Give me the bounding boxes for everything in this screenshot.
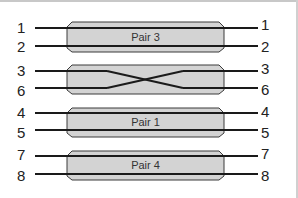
left-pin-2: 2 [17, 39, 25, 54]
right-pin-5: 5 [261, 125, 269, 140]
pair-1-label: Pair 1 [67, 116, 224, 128]
right-pin-7: 7 [261, 146, 269, 161]
pair-3-label: Pair 3 [67, 31, 224, 43]
left-pin-3: 3 [17, 63, 25, 78]
right-pin-2: 2 [261, 39, 269, 54]
left-pin-5: 5 [17, 125, 25, 140]
left-pin-8: 8 [17, 168, 25, 183]
left-pin-7: 7 [17, 147, 25, 162]
right-pin-6: 6 [261, 82, 269, 97]
crossover-3-6-group [35, 65, 258, 94]
left-pin-6: 6 [17, 83, 25, 98]
right-pin-1: 1 [261, 17, 269, 32]
right-pin-4: 4 [261, 104, 269, 119]
left-pin-1: 1 [17, 20, 25, 35]
pair-4-label: Pair 4 [67, 159, 224, 171]
left-pin-4: 4 [17, 105, 25, 120]
wire-pair-diagram: Pair 3 Pair 1 Pair 4 1 2 3 6 4 5 7 8 1 2… [0, 0, 298, 198]
right-pin-8: 8 [261, 168, 269, 183]
right-pin-3: 3 [261, 61, 269, 76]
